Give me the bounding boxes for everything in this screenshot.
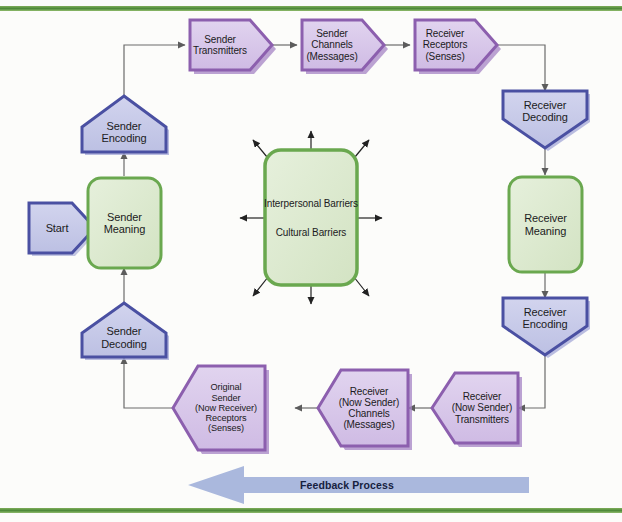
node-sender-transmitters[interactable] [190, 20, 276, 74]
node-receiver-meaning[interactable] [509, 177, 582, 272]
node-sender-channels[interactable] [302, 20, 388, 74]
node-sender-decoding-shape [82, 303, 166, 357]
node-receiver-meaning-shape [509, 177, 582, 272]
node-original-sender-receptors-shape [173, 366, 265, 450]
node-ns-transmitters-shape [432, 373, 518, 443]
connector-receiver-encoding-to-ns-transmitters [518, 355, 545, 408]
node-receiver-receptors[interactable] [415, 20, 501, 74]
connector-original-receptors-to-sender-decoding [124, 357, 173, 408]
diagram-canvas: Start Sender Meaning Sender Encoding Sen… [0, 0, 622, 522]
node-sender-encoding[interactable] [82, 96, 169, 155]
node-ns-transmitters[interactable] [432, 373, 522, 447]
node-original-sender-receptors[interactable] [173, 366, 269, 454]
node-sender-decoding[interactable] [82, 303, 169, 360]
connector-receptors-to-decoding [497, 45, 545, 91]
node-sender-meaning[interactable] [88, 178, 161, 268]
node-receiver-encoding[interactable] [503, 298, 590, 358]
connector-encoding-to-transmitters [124, 45, 185, 96]
node-ns-channels[interactable] [318, 370, 412, 450]
feedback-process-label: Feedback Process [300, 479, 394, 491]
node-receiver-decoding[interactable] [503, 91, 590, 151]
diagram-svg [0, 0, 622, 522]
node-receiver-encoding-shape [503, 298, 587, 355]
node-start-shape [29, 203, 95, 253]
node-ns-channels-shape [318, 370, 408, 446]
node-receiver-decoding-shape [503, 91, 587, 148]
node-barriers[interactable] [265, 150, 357, 285]
node-sender-encoding-shape [82, 96, 166, 152]
node-barriers-shape [265, 150, 357, 285]
node-sender-meaning-shape [88, 178, 161, 268]
